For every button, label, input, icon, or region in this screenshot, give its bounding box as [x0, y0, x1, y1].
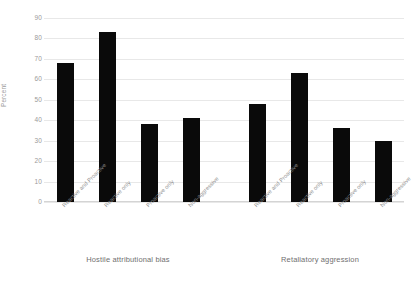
bar [333, 128, 350, 202]
y-tick-label: 0 [18, 199, 42, 206]
y-tick-label: 90 [18, 15, 42, 22]
y-tick-label: 60 [18, 76, 42, 83]
y-tick-label: 50 [18, 97, 42, 104]
y-tick-label: 20 [18, 158, 42, 165]
group-title-2: Retaliatory aggression [236, 255, 404, 264]
y-tick-label: 10 [18, 178, 42, 185]
bar-group-retaliatory-aggression: Reactive and ProactiveReactive onlyProac… [236, 18, 404, 202]
bar [291, 73, 308, 202]
plot-area: Reactive and ProactiveReactive onlyProac… [44, 18, 404, 202]
bar [183, 118, 200, 202]
bar [99, 32, 116, 202]
y-axis-title: Percent [0, 84, 7, 107]
category-labels-group-2: Reactive and ProactiveReactive onlyProac… [236, 202, 404, 262]
y-axis-tick-labels: 9080706050403020100 [14, 18, 42, 202]
bar [141, 124, 158, 202]
y-tick-label: 70 [18, 56, 42, 63]
bar [249, 104, 266, 202]
bars-group-2 [236, 18, 404, 202]
bar [57, 63, 74, 202]
y-tick-label: 40 [18, 117, 42, 124]
group-title-1: Hostile attributional bias [44, 255, 212, 264]
y-tick-label: 80 [18, 35, 42, 42]
category-labels-group-1: Reactive and ProactiveReactive onlyProac… [44, 202, 212, 262]
bars-group-1 [44, 18, 212, 202]
y-tick-label: 30 [18, 137, 42, 144]
bar-chart: Percent 9080706050403020100 Reactive and… [0, 0, 413, 282]
bar-group-hostile-attributional-bias: Reactive and ProactiveReactive onlyProac… [44, 18, 212, 202]
